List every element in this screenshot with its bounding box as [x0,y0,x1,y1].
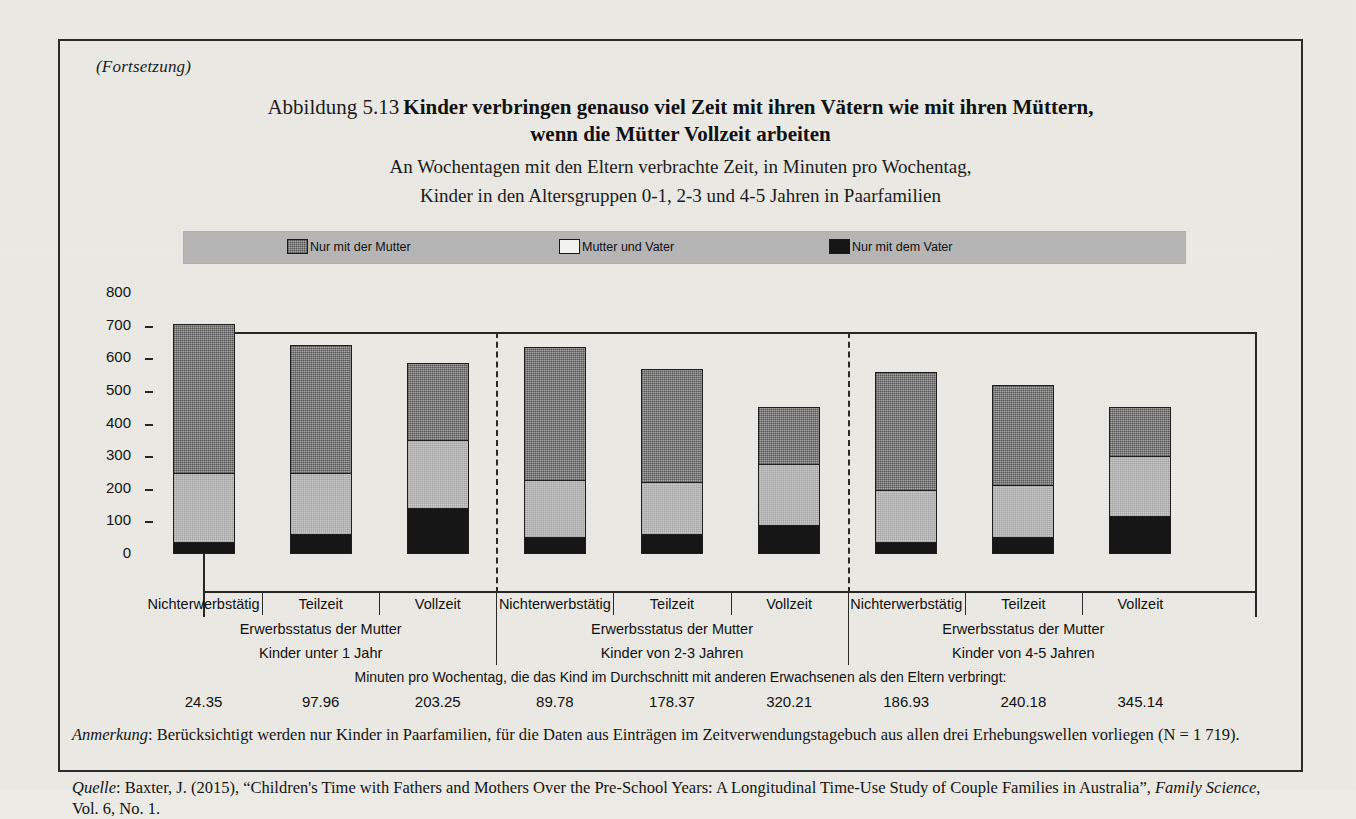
bar-segment-mother-only [408,364,468,441]
bar-segment-both-parents [876,491,936,543]
x-axis-tick-label: Vollzeit [731,596,848,612]
x-axis-category-divider [1082,593,1083,615]
bar-stack [1109,407,1171,554]
group-caption-axis: Erwerbsstatus der Mutter [848,621,1199,637]
figure-title-row: Abbildung 5.13 Kinder verbringen genauso… [60,95,1301,120]
group-separator-dashed [496,332,498,593]
footnote-value: 186.93 [848,693,965,710]
legend-label-father-only: Nur mit dem Vater [852,240,953,254]
legend-label-mother-only: Nur mit der Mutter [310,240,411,254]
footnote-value: 203.25 [379,693,496,710]
x-axis-tick-label: Teilzeit [613,596,730,612]
x-axis-category-divider [613,593,614,615]
y-axis-tick-mark [145,326,153,328]
y-axis-tick-mark [145,391,153,393]
y-axis-tick-label: 600 [71,348,131,365]
group-divider-line [848,593,849,665]
footnote-value: 240.18 [965,693,1082,710]
bar-segment-father-only [993,538,1053,553]
footnote-value: 97.96 [262,693,379,710]
y-axis-tick-label: 100 [71,511,131,528]
y-axis-tick-mark [145,424,153,426]
bar-segment-mother-only [1110,408,1170,458]
bar-segment-father-only [1110,517,1170,553]
bar-segment-mother-only [174,325,234,474]
x-axis-tick-label: Teilzeit [965,596,1082,612]
quelle-label: Quelle [72,778,116,797]
legend-item-father-only: Nur mit dem Vater [829,239,953,254]
x-axis-tick-label: Teilzeit [262,596,379,612]
bar-segment-father-only [876,543,936,553]
bar-segment-father-only [291,535,351,553]
figure-number: Abbildung 5.13 [267,95,399,119]
group-caption-age: Kinder unter 1 Jahr [145,645,496,661]
note-quelle: Quelle: Baxter, J. (2015), “Children's T… [72,777,1287,819]
bar-segment-mother-only [759,408,819,466]
x-axis-tick-label: Vollzeit [1082,596,1199,612]
footnote-value: 178.37 [613,693,730,710]
footnote-value: 345.14 [1082,693,1199,710]
legend-item-both-parents: Mutter und Vater [559,239,674,254]
y-axis-tick-label: 800 [71,283,131,300]
x-axis-category-divider [262,593,263,615]
bar-stack [173,324,235,554]
bar-segment-both-parents [993,486,1053,538]
x-axis-category-divider [379,593,380,615]
group-caption-age: Kinder von 4-5 Jahren [848,645,1199,661]
bar-stack [758,407,820,554]
y-axis-tick-label: 700 [71,316,131,333]
bar-segment-both-parents [1110,457,1170,517]
y-axis-tick-label: 400 [71,414,131,431]
bar-segment-both-parents [642,483,702,536]
group-divider-line [496,593,497,665]
x-axis-tick-label: Nichterwerbstätig [496,596,613,612]
white-swatch-icon [559,239,580,254]
dark-gray-swatch-icon [287,239,308,254]
bar-stack [407,363,469,554]
bar-segment-mother-only [642,370,702,483]
y-axis-tick-mark [145,456,153,458]
note-anmerkung: Anmerkung: Berücksichtigt werden nur Kin… [72,724,1287,745]
bar-stack [290,345,352,554]
quelle-journal: Family Science [1155,778,1256,797]
continuation-label: (Fortsetzung) [96,57,191,77]
bar-segment-both-parents [525,481,585,538]
y-axis-tick-label: 200 [71,479,131,496]
footnote-value: 89.78 [496,693,613,710]
bar-segment-mother-only [291,346,351,474]
y-axis-tick-label: 300 [71,446,131,463]
y-axis-tick-label: 500 [71,381,131,398]
y-axis-tick-mark [145,358,153,360]
bar-segment-father-only [759,526,819,553]
figure-title-line2: wenn die Mütter Vollzeit arbeiten [60,122,1301,147]
legend-label-both-parents: Mutter und Vater [582,240,674,254]
legend-item-mother-only: Nur mit der Mutter [287,239,411,254]
footnote-value: 24.35 [145,693,262,710]
bar-segment-father-only [408,509,468,553]
x-axis-tick-label: Nichterwerbstätig [145,596,262,612]
bar-segment-both-parents [174,474,234,543]
anmerkung-text: : Berücksichtigt werden nur Kinder in Pa… [148,725,1240,744]
x-axis-tick-label: Nichterwerbstätig [848,596,965,612]
bar-stack [641,369,703,554]
plot-area [203,332,1257,593]
y-axis-tick-mark [145,521,153,523]
figure-subtitle-line2: Kinder in den Altersgruppen 0-1, 2-3 und… [60,185,1301,207]
x-axis-category-divider [965,593,966,615]
group-separator-dashed [848,332,850,593]
figure-title-line1: Kinder verbringen genauso viel Zeit mit … [403,95,1093,119]
bar-segment-father-only [642,535,702,553]
bar-stack [875,372,937,554]
anmerkung-label: Anmerkung [72,725,148,744]
bar-segment-mother-only [993,386,1053,486]
y-axis-tick-mark [145,489,153,491]
figure-box: (Fortsetzung) Abbildung 5.13 Kinder verb… [58,39,1303,772]
group-caption-axis: Erwerbsstatus der Mutter [145,621,496,637]
footnote-value: 320.21 [731,693,848,710]
bar-segment-both-parents [408,441,468,509]
chart-legend: Nur mit der Mutter Mutter und Vater Nur … [183,231,1186,264]
x-axis-category-divider [731,593,732,615]
y-axis-tick-label: 0 [71,544,131,561]
bar-segment-father-only [174,543,234,553]
